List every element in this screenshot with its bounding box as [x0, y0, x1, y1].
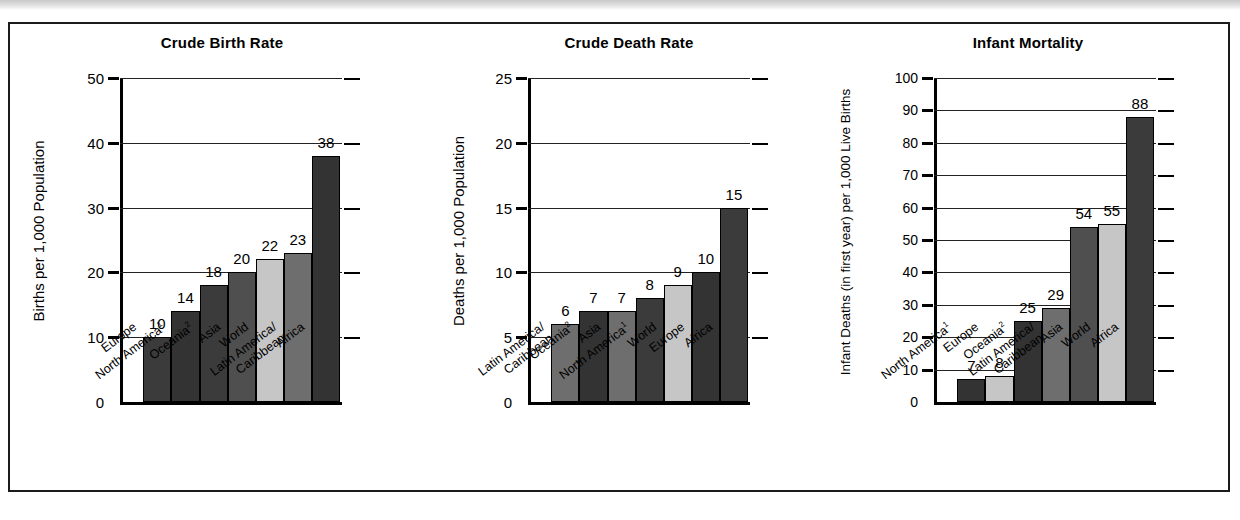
gridline — [934, 175, 1156, 176]
y-tick — [516, 271, 527, 274]
y-tick-label: 15 — [466, 199, 512, 216]
y-tick-right — [1158, 337, 1174, 339]
chart-title: Crude Birth Rate — [12, 34, 432, 51]
y-tick-label: 80 — [872, 135, 918, 151]
bar — [720, 208, 748, 402]
bar-value-label: 20 — [233, 250, 250, 267]
y-tick-right — [1158, 175, 1174, 177]
y-tick-label: 70 — [872, 167, 918, 183]
bar-value-label: 88 — [1132, 95, 1149, 112]
y-tick-right — [344, 337, 360, 339]
y-tick-right — [1158, 208, 1174, 210]
bar-value-label: 8 — [645, 276, 653, 293]
y-tick-right — [1158, 110, 1174, 112]
y-tick-right — [344, 208, 360, 210]
bar-value-label: 18 — [205, 263, 222, 280]
y-tick — [108, 271, 119, 274]
y-tick-label: 20 — [58, 264, 104, 281]
y-tick-right — [1158, 143, 1174, 145]
bar — [1098, 224, 1126, 402]
gridline — [120, 208, 342, 209]
bar-value-label: 6 — [561, 302, 569, 319]
bar — [1070, 227, 1098, 402]
y-tick-label: 30 — [872, 297, 918, 313]
chart-title: Crude Death Rate — [432, 34, 826, 51]
y-tick — [922, 142, 933, 145]
y-tick-right — [344, 272, 360, 274]
y-tick-right — [1158, 240, 1174, 242]
chart-panel-crude-death-rate: Crude Death RateDeaths per 1,000 Populat… — [432, 24, 826, 494]
y-tick — [922, 207, 933, 210]
y-tick-label: 40 — [872, 264, 918, 280]
y-tick — [108, 142, 119, 145]
y-tick-right — [344, 143, 360, 145]
y-axis-label: Infant Deaths (in first year) per 1,000 … — [838, 40, 853, 424]
y-tick-right — [752, 337, 768, 339]
y-tick — [516, 207, 527, 210]
chart-title: Infant Mortality — [826, 34, 1230, 51]
y-tick-right — [752, 78, 768, 80]
gridline — [528, 78, 750, 79]
y-tick-right — [1158, 370, 1174, 372]
y-tick-label: 60 — [872, 200, 918, 216]
y-tick-label: 30 — [58, 199, 104, 216]
y-tick — [516, 142, 527, 145]
y-tick — [922, 174, 933, 177]
y-tick-right — [1158, 78, 1174, 80]
y-tick-label: 20 — [466, 134, 512, 151]
y-tick-label: 10 — [466, 264, 512, 281]
y-tick-label: 25 — [466, 70, 512, 87]
y-tick — [108, 207, 119, 210]
y-tick — [922, 239, 933, 242]
bar-value-label: 29 — [1047, 286, 1064, 303]
bar — [1126, 117, 1154, 402]
bar-value-label: 14 — [177, 289, 194, 306]
y-tick — [922, 271, 933, 274]
gridline — [934, 143, 1156, 144]
bar-value-label: 23 — [290, 231, 307, 248]
y-tick-label: 20 — [872, 329, 918, 345]
y-tick-label: 90 — [872, 102, 918, 118]
gridline — [528, 208, 750, 209]
gridline — [934, 110, 1156, 111]
bar-value-label: 25 — [1019, 299, 1036, 316]
y-axis-label: Births per 1,000 Population — [30, 54, 47, 408]
y-tick — [108, 77, 119, 80]
bar-value-label: 22 — [261, 237, 278, 254]
y-tick-right — [752, 143, 768, 145]
y-tick-label: 50 — [58, 70, 104, 87]
y-tick-right — [752, 208, 768, 210]
y-tick-label: 50 — [872, 232, 918, 248]
bar-value-label: 10 — [698, 250, 715, 267]
bar-value-label: 54 — [1075, 205, 1092, 222]
y-tick-label: 40 — [58, 134, 104, 151]
gridline — [934, 208, 1156, 209]
gridline — [934, 78, 1156, 79]
gridline — [528, 143, 750, 144]
y-tick — [922, 77, 933, 80]
y-tick-label: 10 — [58, 329, 104, 346]
scan-artifact-top — [0, 0, 1240, 10]
gridline — [120, 143, 342, 144]
y-tick-right — [752, 272, 768, 274]
y-tick-label: 5 — [466, 329, 512, 346]
bar — [312, 156, 340, 402]
chart-panel-infant-mortality: Infant MortalityInfant Deaths (in first … — [826, 24, 1230, 494]
y-tick-right — [1158, 305, 1174, 307]
figure-frame: Crude Birth RateBirths per 1,000 Populat… — [8, 22, 1230, 492]
y-tick-right — [1158, 272, 1174, 274]
bar-value-label: 7 — [589, 289, 597, 306]
bar-value-label: 15 — [726, 186, 743, 203]
chart-panel-crude-birth-rate: Crude Birth RateBirths per 1,000 Populat… — [12, 24, 432, 494]
bar-value-label: 7 — [617, 289, 625, 306]
y-tick-right — [344, 78, 360, 80]
y-tick — [516, 77, 527, 80]
bar-value-label: 38 — [318, 134, 335, 151]
y-tick — [922, 109, 933, 112]
bar-value-label: 55 — [1104, 202, 1121, 219]
bar-value-label: 9 — [674, 263, 682, 280]
y-tick — [922, 304, 933, 307]
y-axis-label: Deaths per 1,000 Population — [450, 54, 467, 408]
gridline — [120, 78, 342, 79]
y-tick-label: 100 — [872, 70, 918, 86]
